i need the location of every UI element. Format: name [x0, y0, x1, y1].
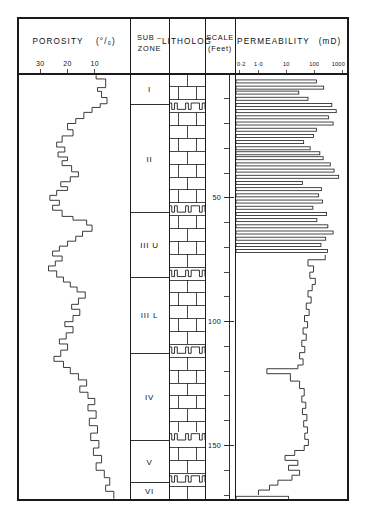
permeability-bar-24: [236, 225, 328, 228]
permeability-step-trace-0: [258, 255, 325, 495]
subzone-title-line2: ZONE: [138, 44, 161, 53]
permeability-bar-6: [236, 116, 329, 119]
scale-title-line2: (Feet): [208, 44, 232, 53]
porosity-unit: (°/₀): [96, 37, 116, 46]
permeability-bar-18: [236, 188, 322, 191]
permeability-axis: 0·21·0101001000: [237, 61, 345, 74]
permeability-bar-8: [236, 128, 316, 131]
subzone-label-IIIL: III L: [141, 311, 158, 320]
permeability-bar-27: [236, 243, 321, 246]
permeability-tick-label-3: 100: [309, 61, 319, 67]
depth-label-100: 100: [208, 317, 221, 326]
figure-frame: [18, 18, 348, 500]
permeability-bar-28: [236, 250, 327, 253]
permeability-bar-15: [236, 169, 334, 172]
permeability-bar-3: [236, 97, 308, 100]
subzone-label-I: I: [148, 85, 151, 94]
permeability-bar-4: [236, 103, 332, 106]
porosity-axis: 302010: [36, 60, 99, 74]
subzone-label-V: V: [146, 458, 152, 467]
permeability-bar-1: [236, 86, 324, 89]
permeability-bar-12: [236, 152, 320, 155]
permeability-bar-25: [236, 231, 333, 234]
subzone-label-II: II: [146, 155, 152, 164]
litholog-column: [169, 74, 205, 500]
permeability-bar-16: [236, 175, 339, 178]
permeability-bar-10: [236, 141, 304, 144]
permeability-bar-26: [236, 237, 326, 240]
subzone-column: IIIIII UIII LIVVVI: [130, 85, 169, 496]
permeability-bar-0: [236, 80, 316, 83]
litholog-title: LITHOLOG: [162, 37, 212, 46]
header-row: POROSITY(°/₀)SUB –ZONELITHOLOGSCALE(Feet…: [32, 33, 341, 53]
permeability-bar-13: [236, 157, 323, 160]
permeability-tick-label-0: 0·2: [237, 61, 246, 67]
porosity-tick-label-1: 20: [63, 60, 72, 67]
permeability-title: PERMEABILITY: [237, 37, 310, 46]
outer-border: [18, 18, 348, 500]
permeability-tick-label-1: 1·0: [254, 61, 263, 67]
subzone-label-VI: VI: [145, 487, 154, 496]
permeability-bar-14: [236, 163, 330, 166]
permeability-tick-label-2: 10: [283, 61, 290, 67]
porosity-tick-label-0: 30: [36, 60, 45, 67]
well-log-figure: POROSITY(°/₀)SUB –ZONELITHOLOGSCALE(Feet…: [0, 0, 366, 527]
permeability-bar-11: [236, 147, 310, 150]
permeability-bar-19: [236, 194, 319, 197]
scale-title-line1: SCALE: [206, 33, 234, 42]
porosity-title: POROSITY: [32, 37, 83, 46]
permeability-track: [236, 80, 339, 500]
permeability-bar-21: [236, 206, 313, 209]
subzone-label-IIIU: III U: [140, 241, 159, 250]
porosity-step-trace: [49, 75, 114, 499]
depth-label-150: 150: [208, 441, 221, 450]
permeability-bar-23: [236, 219, 317, 222]
subzone-label-IV: IV: [145, 393, 154, 402]
depth-label-50: 50: [212, 193, 221, 202]
subzone-title-line1: SUB –: [137, 33, 162, 42]
permeability-bar-20: [236, 200, 323, 203]
permeability-bar-7: [236, 122, 333, 125]
limestone-brick-pattern: [169, 74, 205, 500]
permeability-bar-5: [236, 110, 336, 113]
permeability-bar-22: [236, 212, 327, 215]
porosity-curve: [49, 75, 114, 499]
permeability-unit: (mD): [319, 37, 342, 46]
permeability-tick-label-4: 1000: [332, 61, 345, 67]
well-log-svg: POROSITY(°/₀)SUB –ZONELITHOLOGSCALE(Feet…: [0, 0, 366, 527]
permeability-bar-17: [236, 181, 302, 184]
depth-scale: 50100150: [208, 74, 234, 500]
permeability-bar-9: [236, 134, 314, 137]
permeability-bar-2: [236, 91, 299, 94]
porosity-tick-label-2: 10: [90, 60, 99, 67]
